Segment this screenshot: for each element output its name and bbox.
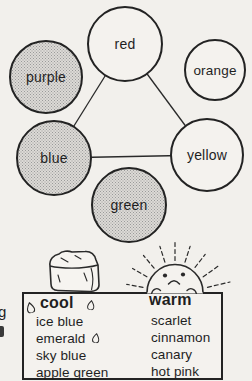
list-item: canary: [151, 346, 210, 363]
circle-blue-label: blue: [40, 150, 67, 166]
circle-yellow-label: yellow: [187, 147, 227, 163]
circle-red: red: [87, 6, 163, 82]
cool-color-list: ice blue emerald sky blue apple green: [36, 313, 108, 381]
list-item: apple green: [36, 364, 108, 381]
water-drop-icon: [86, 299, 95, 310]
sun-icon: [118, 237, 250, 294]
list-item: sky blue: [36, 347, 108, 364]
circle-purple: purple: [9, 40, 83, 114]
list-item: cinnamon: [151, 329, 210, 346]
scanned-figure: red orange purple blue yellow green cool…: [0, 0, 252, 381]
circle-orange: orange: [184, 39, 246, 101]
warm-color-list: scarlet cinnamon canary hot pink: [151, 312, 210, 380]
circle-yellow: yellow: [170, 118, 244, 192]
circle-green: green: [91, 167, 167, 243]
margin-text-fragment: g: [0, 303, 9, 322]
circle-orange-label: orange: [193, 63, 236, 78]
water-drop-icon: [91, 332, 101, 343]
circle-green-label: green: [111, 197, 148, 213]
circle-purple-label: purple: [26, 69, 66, 85]
cool-column-header: cool: [40, 294, 74, 312]
ice-cube-icon: [46, 248, 102, 295]
circle-blue: blue: [16, 120, 92, 196]
list-item: hot pink: [151, 363, 210, 380]
margin-mark-fragment: [0, 326, 4, 337]
list-item: ice blue: [36, 313, 108, 330]
circle-red-label: red: [115, 36, 136, 52]
list-item: scarlet: [151, 312, 210, 329]
